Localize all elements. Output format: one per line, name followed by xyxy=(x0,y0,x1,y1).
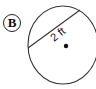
circle-outline xyxy=(28,6,96,84)
measurement-label: 2 ft xyxy=(48,25,67,44)
center-dot xyxy=(64,44,68,48)
circle-figure: 2 ft xyxy=(0,0,96,89)
